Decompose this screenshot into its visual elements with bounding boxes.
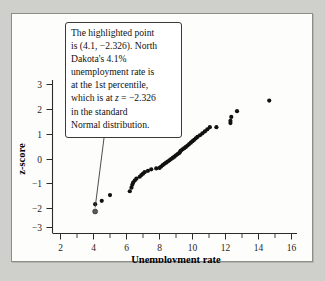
data-point [214,125,218,129]
x-axis-title: Unemployment rate [131,254,221,263]
callout-line-4: unemployment rate is [71,65,176,78]
y-tick-label: 3 [37,80,42,90]
y-tick-label: −1 [32,179,42,189]
x-axis-minor-ticks [77,234,275,239]
x-tick-label: 6 [124,243,129,253]
y-axis-tick-labels: 3 2 1 0 −1 −2 −3 [32,80,42,233]
highlighted-point-callout: The highlighted point is (4.1, −2.326). … [65,22,182,138]
highlighted-data-point [93,209,98,214]
callout-line-1: The highlighted point [71,26,176,39]
data-point [128,189,132,193]
x-tick-label: 16 [287,243,297,253]
callout-line-3: Dakota's 4.1% [71,52,176,65]
data-point [235,109,239,113]
data-point [267,98,271,102]
callout-line-7: in the standard [71,105,176,118]
data-point [100,199,104,203]
x-tick-label: 8 [157,243,162,253]
x-tick-label: 12 [221,243,231,253]
data-point [229,115,233,119]
x-tick-label: 4 [91,243,96,253]
callout-leader-line [95,138,104,207]
callout-line-6-post: = −2.326 [119,92,156,103]
callout-line-8: Normal distribution. [71,118,176,131]
y-axis-title: z-score [16,143,27,175]
x-tick-label: 14 [254,243,264,253]
data-point [208,125,212,129]
y-tick-label: 2 [37,105,42,115]
y-axis-ticks [47,85,53,228]
callout-line-6: which is at z = −2.326 [71,91,176,104]
callout-line-2: is (4.1, −2.326). North [71,39,176,52]
y-tick-label: 0 [37,155,42,165]
x-tick-label: 10 [188,243,198,253]
figure-panel: 3 2 1 0 −1 −2 −3 [11,13,313,262]
y-tick-label: 1 [37,130,42,140]
y-tick-label: −2 [32,204,42,214]
data-point [108,193,112,197]
data-point [228,119,232,123]
x-axis-tick-labels: 2 4 6 8 10 12 14 16 [58,243,296,253]
data-point [149,167,153,171]
y-tick-label: −3 [32,223,42,233]
callout-line-5: at the 1st percentile, [71,78,176,91]
callout-line-6-pre: which is at [71,92,115,103]
x-tick-label: 2 [58,243,63,253]
